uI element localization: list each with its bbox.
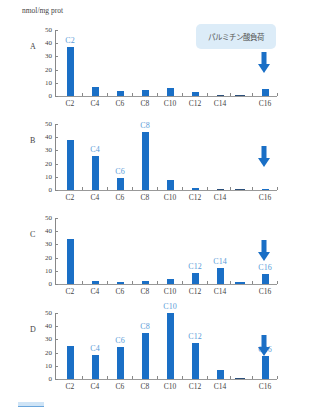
y-tick-label: 20 [40, 66, 52, 74]
y-tick-label: 50 [40, 120, 52, 128]
bar-highlight-label: C4 [80, 344, 110, 353]
category-label: C2 [58, 193, 82, 202]
category-label: C14 [208, 193, 232, 202]
y-tick-mark [55, 231, 58, 232]
panel-label-b: B [30, 136, 35, 145]
y-tick-label: 40 [40, 133, 52, 141]
y-tick-label: 40 [40, 39, 52, 47]
y-tick-mark [55, 271, 58, 272]
bar-highlight-label: C14 [205, 257, 235, 266]
bar-highlight-label: C10 [155, 302, 185, 311]
y-axis [55, 218, 56, 284]
x-tick-mark [207, 281, 208, 284]
x-tick-mark [82, 187, 83, 190]
x-axis [55, 96, 277, 97]
y-tick-label: 30 [40, 146, 52, 154]
category-label: C12 [183, 287, 207, 296]
x-tick-mark [277, 281, 278, 284]
y-axis [55, 124, 56, 190]
bar [192, 92, 199, 96]
category-label: C2 [58, 287, 82, 296]
category-label: C10 [158, 193, 182, 202]
bar [92, 281, 99, 284]
bar-highlight-label: C6 [105, 167, 135, 176]
bar [142, 281, 149, 284]
x-tick-mark [107, 281, 108, 284]
x-tick-mark [132, 376, 133, 379]
bar [167, 279, 174, 284]
y-tick-mark [55, 190, 58, 191]
bar [117, 91, 124, 96]
y-unit-label: nmol/mg prot [22, 6, 63, 15]
category-label: C8 [133, 287, 157, 296]
x-tick-mark [207, 376, 208, 379]
category-label: C4 [83, 193, 107, 202]
y-tick-mark [55, 150, 58, 151]
bar [262, 189, 269, 190]
y-tick-mark [55, 177, 58, 178]
category-label: C2 [58, 382, 82, 391]
category-label: C6 [108, 193, 132, 202]
x-tick-mark [277, 187, 278, 190]
y-tick-mark [55, 244, 58, 245]
bar [142, 333, 149, 379]
y-tick-mark [55, 70, 58, 71]
x-tick-mark [230, 376, 231, 379]
category-label: C16 [253, 99, 277, 108]
category-label: C16 [253, 287, 277, 296]
category-label: C6 [108, 287, 132, 296]
bar-highlight-label: C8 [130, 322, 160, 331]
y-tick-label: 10 [40, 173, 52, 181]
bar [142, 132, 149, 190]
bar [262, 89, 269, 96]
bar [167, 313, 174, 379]
down-arrow-icon [258, 240, 270, 262]
bar [142, 90, 149, 96]
y-tick-label: 0 [40, 186, 52, 194]
y-tick-mark [55, 313, 58, 314]
y-tick-label: 30 [40, 240, 52, 248]
bar [217, 370, 224, 379]
x-tick-mark [252, 281, 253, 284]
x-tick-mark [277, 93, 278, 96]
x-axis [55, 190, 277, 191]
y-tick-mark [55, 258, 58, 259]
x-tick-mark [157, 281, 158, 284]
y-tick-mark [55, 366, 58, 367]
bar [235, 378, 245, 379]
category-label: C16 [253, 193, 277, 202]
category-label: C14 [208, 287, 232, 296]
x-tick-mark [157, 376, 158, 379]
category-label: C4 [83, 287, 107, 296]
category-label: C12 [183, 99, 207, 108]
y-tick-mark [55, 339, 58, 340]
y-tick-mark [55, 83, 58, 84]
category-label: C2 [58, 99, 82, 108]
x-tick-mark [107, 376, 108, 379]
down-arrow-icon [258, 52, 270, 74]
y-tick-label: 30 [40, 335, 52, 343]
bar [92, 355, 99, 379]
x-tick-mark [132, 187, 133, 190]
bar [167, 180, 174, 190]
bar [92, 87, 99, 96]
y-tick-label: 0 [40, 92, 52, 100]
y-axis [55, 313, 56, 379]
bar [192, 188, 199, 190]
bar [117, 178, 124, 190]
category-label: C12 [183, 382, 207, 391]
bar [217, 189, 224, 190]
bar-highlight-label: C12 [180, 332, 210, 341]
bar [117, 282, 124, 284]
category-label: C10 [158, 382, 182, 391]
down-arrow-icon [258, 335, 270, 357]
bar-highlight-label: C16 [250, 263, 280, 272]
category-label: C10 [158, 287, 182, 296]
y-tick-label: 20 [40, 254, 52, 262]
bar [67, 239, 74, 284]
x-tick-mark [252, 376, 253, 379]
y-tick-label: 20 [40, 160, 52, 168]
y-tick-mark [55, 96, 58, 97]
y-tick-label: 40 [40, 322, 52, 330]
x-tick-mark [252, 187, 253, 190]
